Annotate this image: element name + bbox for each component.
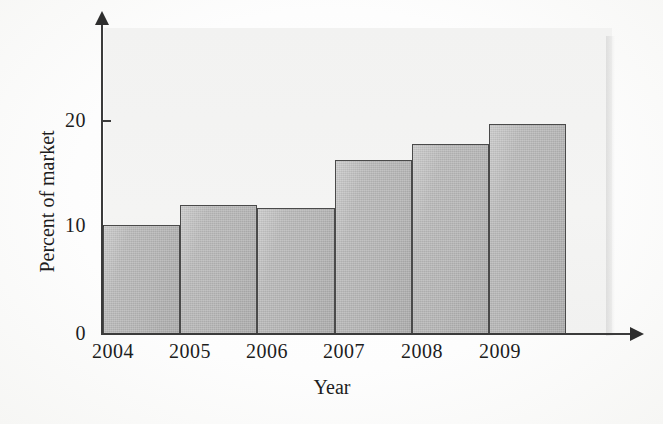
x-axis-arrow-icon (630, 327, 644, 341)
chart-screenshot: 20 10 0 2004 2005 2006 2007 2008 2009 Ye… (0, 0, 663, 424)
bar-2009 (489, 124, 566, 334)
y-tick-mark-20 (102, 120, 111, 122)
bar-2007 (335, 160, 412, 334)
x-axis-title: Year (252, 376, 412, 399)
y-axis-title: Percent of market (36, 102, 59, 302)
x-tick-label-2007: 2007 (299, 340, 389, 363)
y-axis-line (101, 22, 103, 335)
bar-2005 (180, 205, 257, 334)
x-tick-label-2008: 2008 (377, 340, 467, 363)
x-tick-label-2009: 2009 (455, 340, 545, 363)
y-axis-arrow-icon (95, 11, 109, 25)
bar-2008 (412, 144, 489, 334)
bar-2006 (257, 208, 334, 334)
bar-2004 (103, 225, 180, 334)
x-axis-line (101, 333, 635, 335)
y-tick-mark-10 (102, 225, 104, 227)
